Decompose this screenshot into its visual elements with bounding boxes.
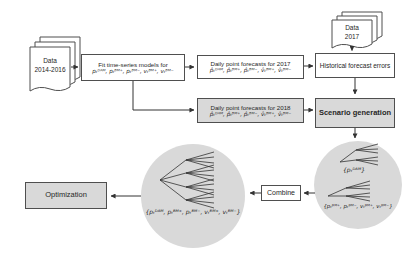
- data-label-line1: Data: [26, 57, 74, 66]
- data-2014-2016-label: Data 2014-2016: [26, 57, 74, 75]
- data-label-line2: 2017: [332, 33, 372, 42]
- data-label-line1: Data: [332, 24, 372, 33]
- fit-models-title: Fit time-series models for: [98, 61, 167, 68]
- forecasts-2017-box: Daily point forecasts for 2017 p̂ₜᴰᴬᴹ, p…: [197, 55, 304, 79]
- dam-scenarios-caption: {pₜᴰᴬᴹ}: [330, 166, 378, 173]
- flowchart-diagram: Data 2014-2016 Data 2017 Fit time-series…: [0, 0, 417, 258]
- data-2017-label: Data 2017: [332, 24, 372, 42]
- optimization-label: Optimization: [45, 191, 87, 200]
- scenario-fan-bm-icon: [328, 181, 370, 201]
- forecasts-2017-formula: p̂ₜᴰᴬᴹ, p̂ₜᴮᴹ⁺, p̂ₜᴮᴹ⁻, v̂ₜᴮᴹ⁺, v̂ₜᴮᴹ⁻: [210, 67, 292, 73]
- fit-models-box: Fit time-series models for pₜᴰᴬᴹ, pₜᴮᴹ⁺,…: [81, 54, 185, 81]
- scenario-fan-dam-icon: [340, 144, 378, 165]
- forecasts-2018-box: Daily point forecasts for 2018 p̂ₜᴰᴬᴹ, p…: [197, 98, 304, 123]
- data-label-line2: 2014-2016: [26, 66, 74, 75]
- scenario-generation-label: Scenario generation: [319, 109, 391, 118]
- historical-errors-label: Historical forecast errors: [320, 62, 390, 69]
- bm-scenarios-caption: {pₜᴮᴹ⁺, pₜᴮᴹ⁻, vₜᴮᴹ⁺, vₜᴮᴹ⁻}: [310, 203, 406, 209]
- optimization-box: Optimization: [25, 182, 107, 209]
- historical-errors-box: Historical forecast errors: [315, 53, 395, 78]
- combined-scenarios-caption: {pₜᴰᴬᴹ, pₜᴮᴹ⁺, pₜᴮᴹ⁻, vₜᴮᴹ⁺, vₜᴮᴹ⁻}: [128, 208, 258, 215]
- fit-models-formula: pₜᴰᴬᴹ, pₜᴮᴹ⁺, pₜᴮᴹ⁻, vₜᴮᴹ⁺, vₜᴮᴹ⁻: [92, 68, 174, 74]
- scenario-generation-box: Scenario generation: [315, 98, 395, 128]
- arrow-fit-to-forecast2018: [133, 81, 194, 110]
- forecasts-2018-title: Daily point forecasts for 2018: [210, 104, 290, 111]
- combine-label: Combine: [267, 189, 295, 197]
- combine-box: Combine: [261, 185, 301, 201]
- scenario-tree-icon: [160, 152, 214, 208]
- forecasts-2017-title: Daily point forecasts for 2017: [210, 60, 290, 67]
- forecasts-2018-formula: p̂ₜᴰᴬᴹ, p̂ₜᴮᴹ⁺, p̂ₜᴮᴹ⁻, v̂ₜᴮᴹ⁺, v̂ₜᴮᴹ⁻: [210, 111, 292, 117]
